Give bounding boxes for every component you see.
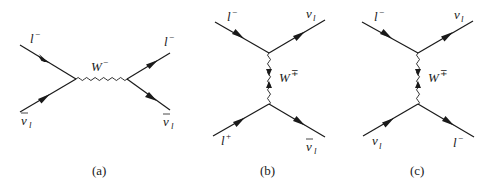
w-boson-propagator: [76, 78, 127, 81]
label-in-top: l: [227, 9, 231, 24]
label-in-bottom-sup: +: [226, 131, 231, 141]
label-boson-charge: ∓: [291, 68, 299, 78]
arrow-icon: [266, 81, 272, 88]
label-out-bottom: l: [453, 135, 457, 150]
label-boson-charge: ∓: [440, 68, 448, 78]
arrow-icon: [38, 94, 50, 104]
label-in-bottom-sub: l: [29, 120, 32, 130]
label-in-bottom-sub: l: [379, 141, 382, 151]
label-out-top-sub: l: [313, 13, 316, 23]
label-in-top-sup: −: [35, 29, 40, 39]
arrow-icon: [266, 69, 272, 76]
label-boson: W: [428, 70, 440, 85]
label-in-top: l: [374, 9, 378, 24]
w-boson-propagator: [268, 53, 271, 105]
label-in-bottom: l: [221, 133, 225, 148]
arrow-icon: [442, 116, 454, 126]
label-in-top: l: [30, 31, 34, 46]
label-in-bottom: ν: [21, 113, 27, 128]
caption-b: (b): [260, 163, 275, 178]
arrow-icon: [382, 118, 394, 128]
arrow-icon: [293, 32, 305, 42]
label-out-bottom: ν: [306, 139, 312, 154]
label-out-top: ν: [306, 6, 312, 21]
panel-a: l − ν l W − l − ν l (a): [20, 29, 174, 178]
arrow-icon: [146, 60, 158, 69]
arrow-icon: [380, 29, 392, 39]
arrow-icon: [415, 69, 421, 76]
feynman-diagrams: l − ν l W − l − ν l (a) l − ν l W ∓ l +: [0, 0, 495, 186]
w-boson-propagator: [417, 53, 420, 105]
label-boson: W: [91, 59, 103, 74]
label-in-top-sup: −: [232, 7, 237, 17]
label-boson-charge: −: [103, 57, 108, 67]
label-out-top: ν: [454, 7, 460, 22]
arrow-icon: [441, 32, 453, 42]
arrow-icon: [293, 116, 305, 126]
label-out-bottom-sup: −: [458, 133, 463, 143]
panel-b: l − ν l W ∓ l + ν l (b): [213, 6, 325, 178]
label-out-bottom-sub: l: [314, 146, 317, 156]
label-out-top: l: [164, 34, 168, 49]
arrow-icon: [232, 29, 244, 39]
arrow-icon: [415, 81, 421, 88]
caption-c: (c): [410, 163, 424, 178]
arrow-icon: [233, 118, 245, 128]
label-out-top-sub: l: [461, 14, 464, 24]
label-out-bottom-sub: l: [171, 121, 174, 131]
caption-a: (a): [92, 163, 106, 178]
label-out-top-sup: −: [169, 32, 174, 42]
label-in-bottom: ν: [372, 133, 378, 148]
panel-c: l − ν l W ∓ ν l l − (c): [362, 7, 474, 178]
label-in-top-sup: −: [379, 7, 384, 17]
label-boson: W: [279, 70, 291, 85]
label-out-bottom: ν: [163, 114, 169, 129]
